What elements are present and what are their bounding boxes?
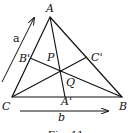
label-vector-b: b — [58, 111, 65, 124]
label-q: Q — [66, 76, 75, 89]
label-a-prime: A' — [60, 95, 72, 108]
triangle-diagram: A B C A' B' C' P Q a b Fig. 11 — [0, 0, 130, 133]
label-c-prime: C' — [91, 51, 102, 64]
cevian-b-b-prime — [30, 58, 122, 97]
label-b-prime: B' — [18, 52, 30, 65]
label-b-vertex: B — [118, 100, 127, 113]
label-c-vertex: C — [2, 100, 11, 113]
vector-a-arrow — [2, 18, 34, 82]
label-a-vertex: A — [45, 2, 54, 15]
figure-caption: Fig. 11 — [48, 129, 84, 133]
label-vector-a: a — [13, 32, 20, 45]
label-p: P — [46, 51, 55, 64]
